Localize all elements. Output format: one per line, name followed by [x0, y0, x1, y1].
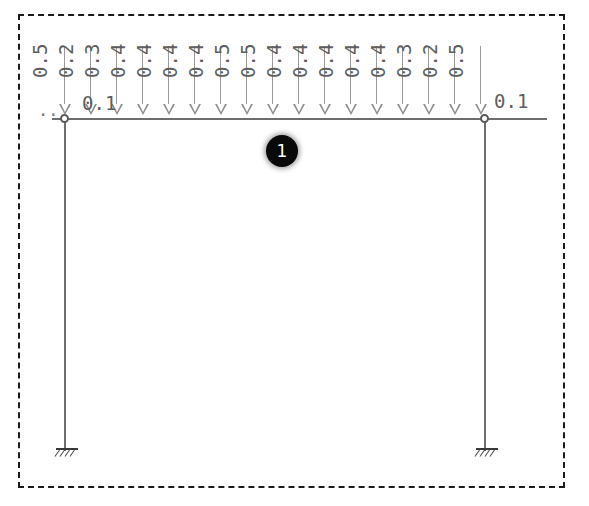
diagram-canvas: .. 0.50.20.30.40.40.40.40.50.50.40.40.40…	[0, 0, 589, 506]
load-arrow-head-inner	[373, 104, 381, 112]
load-value-label: 0.3	[81, 44, 103, 78]
right-end-load-label: 0.1	[494, 90, 528, 112]
support-hatch	[490, 450, 495, 457]
load-value-label: 0.4	[159, 44, 181, 78]
load-arrow-head-inner	[139, 104, 147, 112]
load-arrow-head-inner	[321, 104, 329, 112]
beam-member	[52, 118, 547, 120]
load-arrow-head-inner	[243, 104, 251, 112]
load-value-label: 0.4	[133, 44, 155, 78]
load-value-label: 0.3	[393, 44, 415, 78]
load-arrow-head-inner	[399, 104, 407, 112]
load-value-label: 0.2	[55, 44, 77, 78]
load-value-label: 0.4	[263, 44, 285, 78]
left-fixed-support	[48, 440, 88, 470]
load-value-label: 0.4	[107, 44, 129, 78]
load-arrow-head-inner	[217, 104, 225, 112]
load-arrow-head-inner	[347, 104, 355, 112]
load-arrow-stem	[480, 46, 481, 110]
right-beam-node[interactable]	[480, 114, 489, 123]
left-leader-dots: ..	[38, 100, 58, 120]
load-value-label: 0.5	[445, 44, 467, 78]
left-column-member	[64, 119, 66, 451]
load-value-label: 0.4	[367, 44, 389, 78]
load-arrow-head-inner	[425, 104, 433, 112]
left-end-load-label: 0.1	[82, 92, 116, 114]
load-value-label: 0.4	[341, 44, 363, 78]
load-value-label: 0.5	[211, 44, 233, 78]
load-arrow-head-inner	[165, 104, 173, 112]
load-value-label: 0.4	[289, 44, 311, 78]
load-arrow-head-inner	[191, 104, 199, 112]
load-value-label: 0.5	[237, 44, 259, 78]
load-arrow-head-inner	[451, 104, 459, 112]
load-arrow-head-inner	[269, 104, 277, 112]
load-value-label: 0.4	[185, 44, 207, 78]
load-arrow-head-inner	[295, 104, 303, 112]
load-value-label: 0.2	[419, 44, 441, 78]
diagram-frame-border	[18, 14, 565, 488]
load-value-label: 0.5	[29, 44, 51, 78]
load-arrow-head-inner	[61, 104, 69, 112]
load-value-label: 0.4	[315, 44, 337, 78]
right-fixed-support	[468, 440, 508, 470]
right-column-member	[484, 119, 486, 451]
support-hatch	[70, 450, 75, 457]
load-arrow-head-inner	[477, 104, 485, 112]
left-beam-node[interactable]	[60, 114, 69, 123]
member-number-badge[interactable]: 1	[266, 135, 298, 167]
